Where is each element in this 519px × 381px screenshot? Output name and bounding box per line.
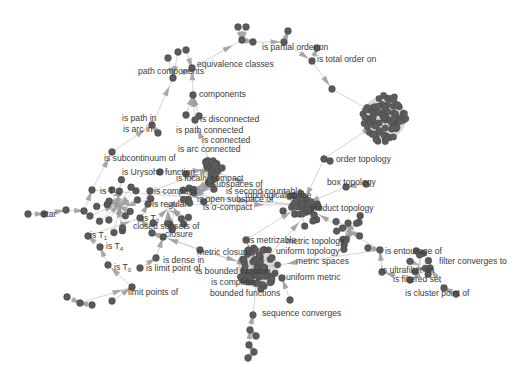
node-label-limit-points-of: limit points of — [128, 287, 178, 297]
graph-node — [175, 49, 182, 56]
label-text: equivalence classes — [197, 59, 274, 69]
node-label-is-subcontinuum-of: is subcontinuum of — [104, 153, 176, 163]
node-label-is-path-in: is path in — [122, 113, 156, 123]
label-text: is partial order on — [262, 42, 328, 52]
graph-node — [376, 95, 382, 101]
label-text: components — [199, 89, 246, 99]
node-label-box-topology: box topology — [327, 177, 376, 187]
node-label-path-components: path components — [138, 66, 204, 76]
node-label-is-T1: is T1 — [90, 230, 107, 243]
graph-node — [145, 201, 152, 208]
label-text: filter converges to — [439, 256, 507, 266]
arrowhead-icon — [319, 215, 329, 223]
graph-node — [119, 224, 126, 231]
label-subscript: 4 — [120, 246, 123, 252]
graph-node — [250, 312, 257, 319]
graph-node — [134, 197, 141, 204]
node-label-is-compact: is compact — [154, 186, 195, 196]
node-label-is-partial-order-on: is partial order on — [262, 42, 328, 52]
label-text: is arc in — [123, 124, 153, 134]
graph-node — [245, 355, 252, 362]
graph-node — [392, 111, 398, 117]
label-text: is compact — [154, 186, 195, 196]
graph-node — [153, 255, 160, 262]
graph-node — [190, 92, 197, 99]
node-label-bounded-functions: bounded functions — [210, 288, 280, 298]
graph-node — [356, 233, 363, 240]
arrowhead-icon — [223, 45, 233, 52]
node-label-is-arc-connected: is arc connected — [178, 144, 241, 154]
graph-node — [64, 294, 71, 301]
node-label-is-cluster-point-of: is cluster point of — [405, 288, 469, 298]
label-text: closure — [165, 229, 193, 239]
label-text: bounded functions — [210, 288, 280, 298]
label-text: is total order on — [317, 54, 376, 64]
label-text: star — [42, 209, 56, 219]
graph-node — [299, 211, 305, 217]
graph-node — [381, 104, 387, 110]
graph-node — [203, 160, 210, 167]
graph-node — [301, 223, 308, 230]
graph-node — [407, 258, 414, 265]
graph-node — [279, 275, 286, 282]
node-label-is-complete: is complete — [211, 277, 254, 287]
graph-node — [391, 97, 397, 103]
graph-node — [127, 208, 134, 215]
graph-node — [357, 212, 364, 219]
node-label-is-entourage-of: is entourage of — [385, 246, 442, 256]
label-text: is disconnected — [200, 114, 259, 124]
node-label-is-path-connected: is path connected — [176, 125, 243, 135]
graph-node — [165, 55, 172, 62]
graph-node — [321, 156, 328, 163]
node-label-filter-converges-to: filter converges to — [439, 256, 507, 266]
graph-node — [345, 220, 352, 227]
graph-node — [81, 208, 88, 215]
graph-node — [251, 349, 258, 356]
label-text: is subcontinuum of — [104, 153, 176, 163]
graph-node — [329, 86, 336, 93]
label-text: is arc connected — [178, 144, 241, 154]
node-label-metric-closure: metric closure — [197, 247, 250, 257]
graph-node — [183, 112, 190, 119]
graph-node — [382, 125, 388, 131]
node-label-uniform-metric: uniform metric — [286, 272, 340, 282]
node-label-product-topology: product topology — [310, 203, 374, 213]
node-label-is-arc-in: is arc in — [123, 124, 153, 134]
graph-node — [327, 158, 334, 165]
label-text: limit points of — [128, 287, 178, 297]
arrowhead-icon — [321, 76, 329, 86]
label-text: is bounded function — [196, 266, 271, 276]
label-text: product topology — [310, 203, 374, 213]
graph-node — [185, 214, 192, 221]
node-label-is-disconnected: is disconnected — [200, 114, 259, 124]
label-text: uniform metric — [286, 272, 340, 282]
graph-node — [370, 132, 376, 138]
label-text: uniform topology — [276, 246, 340, 256]
graph-node — [87, 213, 94, 220]
graph-node — [260, 247, 266, 253]
node-label-is-regular: is regular — [152, 199, 187, 209]
graph-node — [269, 254, 275, 260]
graph-node — [362, 107, 368, 113]
graph-node — [285, 28, 292, 35]
graph-node — [397, 118, 403, 124]
node-label-closure: closure — [165, 229, 193, 239]
label-text: metric closure — [197, 247, 250, 257]
graph-node — [105, 217, 112, 224]
graph-node — [183, 47, 190, 54]
node-label-equivalence-classes: equivalence classes — [197, 59, 274, 69]
label-text: is cluster point of — [405, 288, 469, 298]
node-label-components: components — [199, 89, 246, 99]
graph-node — [353, 220, 360, 227]
node-label-sequence-converges: sequence converges — [262, 308, 341, 318]
label-subscript: 0 — [128, 267, 131, 273]
label-text: is filtered set — [393, 274, 441, 284]
graph-node — [247, 327, 254, 334]
label-text: is path connected — [176, 125, 243, 135]
label-text: sequence converges — [262, 308, 341, 318]
graph-node — [239, 37, 246, 44]
label-text: order topology — [336, 154, 391, 164]
graph-node — [137, 265, 144, 272]
graph-node — [362, 114, 368, 120]
node-label-is-bounded-function: is bounded function — [196, 266, 271, 276]
